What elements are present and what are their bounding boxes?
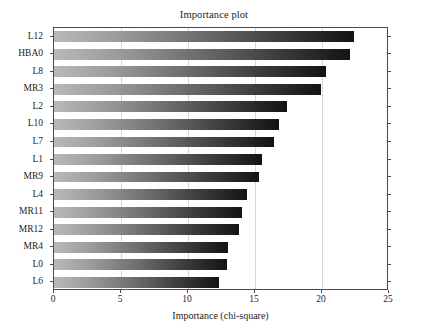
y-tick-mark-l10	[50, 123, 53, 124]
y-tick-mark-l0	[50, 264, 53, 265]
y-tick-mark-right-mr11	[388, 211, 391, 212]
y-tick-mark-l12	[50, 36, 53, 37]
y-tick-mark-right-l8	[388, 71, 391, 72]
y-tick-label-l10: L10	[28, 118, 43, 128]
y-tick-label-mr4: MR4	[23, 241, 43, 251]
y-tick-mark-mr12	[50, 229, 53, 230]
bar-l1	[54, 154, 262, 165]
chart-title: Importance plot	[0, 9, 428, 20]
y-tick-mark-l4	[50, 194, 53, 195]
y-tick-mark-right-l1	[388, 159, 391, 160]
y-tick-mark-right-l2	[388, 106, 391, 107]
x-tick-mark-5	[120, 290, 121, 293]
x-tick-label-15: 15	[239, 294, 269, 305]
y-tick-mark-right-l10	[388, 123, 391, 124]
y-tick-mark-right-hba0	[388, 53, 391, 54]
importance-plot-figure: Importance plot L12HBA0L8MR3L2L10L7L1MR9…	[0, 0, 428, 334]
bar-l6	[54, 277, 219, 288]
y-tick-mark-right-l0	[388, 264, 391, 265]
x-tick-mark-15	[254, 290, 255, 293]
y-tick-mark-right-l4	[388, 194, 391, 195]
y-tick-mark-right-mr12	[388, 229, 391, 230]
bar-row	[54, 277, 387, 288]
bar-mr12	[54, 224, 239, 235]
y-tick-mark-l7	[50, 141, 53, 142]
bar-row	[54, 101, 387, 112]
plot-area	[53, 27, 388, 290]
y-tick-mark-l2	[50, 106, 53, 107]
y-tick-mark-mr3	[50, 88, 53, 89]
bar-row	[54, 259, 387, 270]
y-tick-mark-hba0	[50, 53, 53, 54]
y-tick-mark-mr11	[50, 211, 53, 212]
bar-mr9	[54, 172, 259, 183]
y-tick-mark-right-l12	[388, 36, 391, 37]
x-tick-label-25: 25	[373, 294, 403, 305]
y-tick-mark-l6	[50, 281, 53, 282]
x-tick-label-10: 10	[172, 294, 202, 305]
y-tick-label-mr3: MR3	[23, 83, 43, 93]
bar-row	[54, 84, 387, 95]
y-tick-mark-mr9	[50, 176, 53, 177]
y-tick-label-l1: L1	[32, 154, 43, 164]
bar-mr4	[54, 242, 228, 253]
bar-row	[54, 207, 387, 218]
x-tick-label-20: 20	[306, 294, 336, 305]
y-tick-label-hba0: HBA0	[18, 48, 43, 58]
y-tick-mark-l1	[50, 159, 53, 160]
y-tick-mark-right-mr4	[388, 246, 391, 247]
bar-l0	[54, 259, 227, 270]
y-tick-label-l4: L4	[32, 189, 43, 199]
y-tick-label-l8: L8	[32, 66, 43, 76]
y-tick-mark-right-mr3	[388, 88, 391, 89]
bar-hba0	[54, 49, 350, 60]
bar-l4	[54, 189, 247, 200]
bar-row	[54, 242, 387, 253]
x-tick-label-5: 5	[105, 294, 135, 305]
x-tick-mark-0	[53, 290, 54, 293]
y-tick-mark-right-l7	[388, 141, 391, 142]
y-tick-label-l12: L12	[28, 31, 43, 41]
bar-l7	[54, 137, 274, 148]
x-tick-mark-10	[187, 290, 188, 293]
x-axis-title: Importance (chi-square)	[53, 310, 388, 321]
y-tick-mark-mr4	[50, 246, 53, 247]
bar-l2	[54, 101, 287, 112]
bar-row	[54, 66, 387, 77]
bar-row	[54, 49, 387, 60]
bar-row	[54, 172, 387, 183]
x-tick-mark-20	[321, 290, 322, 293]
bar-l10	[54, 119, 279, 130]
bar-mr3	[54, 84, 321, 95]
bar-row	[54, 137, 387, 148]
y-tick-label-l2: L2	[32, 101, 43, 111]
bar-row	[54, 31, 387, 42]
bar-l12	[54, 31, 354, 42]
y-tick-label-mr12: MR12	[19, 224, 43, 234]
y-tick-label-mr11: MR11	[19, 206, 43, 216]
y-tick-mark-l8	[50, 71, 53, 72]
y-tick-mark-right-l6	[388, 281, 391, 282]
x-tick-mark-25	[388, 290, 389, 293]
y-tick-label-l0: L0	[32, 259, 43, 269]
bar-series	[54, 28, 387, 289]
y-tick-label-mr9: MR9	[23, 171, 43, 181]
y-tick-label-l6: L6	[32, 276, 43, 286]
x-tick-label-0: 0	[38, 294, 68, 305]
y-tick-label-l7: L7	[32, 136, 43, 146]
bar-row	[54, 189, 387, 200]
bar-l8	[54, 66, 326, 77]
bar-row	[54, 154, 387, 165]
bar-row	[54, 119, 387, 130]
bar-mr11	[54, 207, 242, 218]
bar-row	[54, 224, 387, 235]
y-tick-mark-right-mr9	[388, 176, 391, 177]
y-axis-category-labels: L12HBA0L8MR3L2L10L7L1MR9L4MR11MR12MR4L0L…	[0, 27, 49, 290]
